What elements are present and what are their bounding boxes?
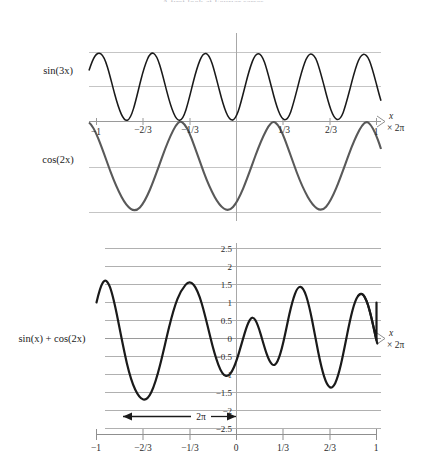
- y-tick-label: 1.5: [221, 280, 233, 290]
- y-tick-label: 2: [228, 262, 233, 272]
- curve-cos2x: [89, 122, 381, 210]
- figure-page: A first look at Fourier series: [0, 0, 426, 457]
- y-tick-label: 0.5: [221, 316, 233, 326]
- label-sin3x: sin(3x): [43, 65, 73, 77]
- lower-panel-x-tick-labels: −1 −2/3 −1/3 0 1/3 2/3 1: [91, 443, 379, 453]
- y-tick-label: 1: [228, 298, 233, 308]
- lower-panel-bottom-axis: [97, 429, 377, 440]
- x-tick-label: 1/3: [277, 443, 289, 453]
- lower-panel: 2.5 2 1.5 1 0.5 0 −0.5 −1 −1.5 −2 −2.5 2…: [18, 243, 404, 453]
- x-tick-label: 1/3: [278, 125, 290, 135]
- curve-tail-segment: [358, 294, 377, 344]
- lower-panel-axis-var-label: x: [388, 328, 394, 338]
- x-tick-label: 2/3: [324, 443, 336, 453]
- label-cos2x: cos(2x): [42, 154, 74, 166]
- x-tick-label: −1/3: [181, 125, 199, 135]
- upper-panel-gridlines: [89, 53, 381, 213]
- upper-panel-axis-var-label: x: [388, 111, 394, 121]
- y-tick-label: 0: [228, 334, 233, 344]
- x-tick-label: 0: [234, 443, 239, 453]
- y-tick-label: −1: [222, 370, 232, 380]
- x-tick-label: −1: [91, 127, 101, 137]
- upper-panel: sin(3x) cos(2x) −1 −2/3 −1/3 1/3 2/3 1 x…: [42, 33, 404, 221]
- y-tick-label: 2.5: [221, 244, 233, 254]
- y-tick-label: −1.5: [216, 388, 233, 398]
- plots-svg: sin(3x) cos(2x) −1 −2/3 −1/3 1/3 2/3 1 x…: [0, 0, 426, 457]
- upper-panel-axis-unit-label: × 2π: [387, 123, 404, 133]
- x-tick-label: −1/3: [181, 443, 199, 453]
- upper-panel-x-tick-labels: −1 −2/3 −1/3 1/3 2/3 1: [91, 125, 379, 137]
- x-tick-label: −1: [91, 443, 101, 453]
- x-tick-label: 1: [374, 443, 379, 453]
- label-sin-plus-cos: sin(x) + cos(2x): [18, 333, 86, 345]
- y-tick-label: −2.5: [216, 424, 233, 434]
- period-annotation-label: 2π: [196, 412, 206, 422]
- x-tick-label: −2/3: [134, 443, 152, 453]
- x-tick-label: 2/3: [325, 125, 337, 135]
- lower-panel-axis-unit-label: × 2π: [387, 340, 404, 350]
- x-tick-label: −2/3: [134, 125, 152, 135]
- y-tick-label: −0.5: [216, 352, 233, 362]
- period-annotation: 2π: [123, 412, 236, 422]
- x-tick-label: 1: [374, 127, 379, 137]
